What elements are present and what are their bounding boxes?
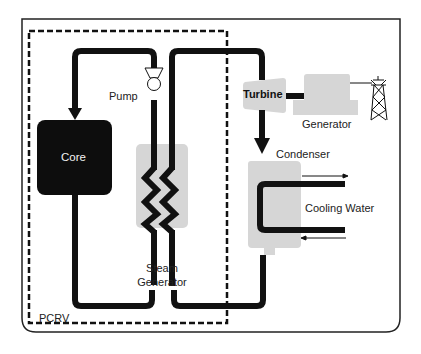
power-tower-icon [371, 76, 387, 120]
pcrv-label: PCRV [39, 312, 69, 324]
steam-generator-label-line1: Steam [142, 262, 182, 274]
arrow-to-condenser-icon [254, 138, 270, 154]
arrow-to-core-icon [68, 108, 82, 120]
cooling-water-label: Cooling Water [305, 202, 374, 214]
pump-label: Pump [109, 90, 138, 102]
pump-icon [145, 68, 163, 91]
diagram-canvas [0, 0, 421, 354]
steam-generator-label-line2: Generator [131, 276, 193, 288]
generator-label: Generator [302, 118, 352, 130]
steam-generator-vessel [136, 144, 188, 228]
core-label: Core [61, 151, 86, 163]
turbine-label: Turbine [243, 88, 283, 100]
condenser-label: Condenser [276, 148, 330, 160]
condenser-body [248, 161, 301, 255]
